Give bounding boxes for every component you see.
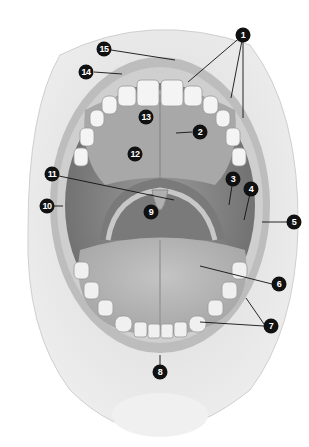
label-marker-11: 11 xyxy=(45,167,60,182)
oral-cavity-diagram: 123456789101112131415 xyxy=(0,0,309,447)
label-marker-15: 15 xyxy=(97,42,112,57)
label-marker-3: 3 xyxy=(226,172,241,187)
label-marker-8: 8 xyxy=(153,365,168,380)
label-marker-13: 13 xyxy=(139,110,154,125)
label-marker-10: 10 xyxy=(40,199,55,214)
label-marker-9: 9 xyxy=(144,205,159,220)
label-marker-1: 1 xyxy=(236,28,251,43)
label-marker-6: 6 xyxy=(272,277,287,292)
label-marker-7: 7 xyxy=(264,319,279,334)
label-marker-4: 4 xyxy=(244,182,259,197)
label-marker-14: 14 xyxy=(79,65,94,80)
label-marker-2: 2 xyxy=(193,125,208,140)
label-marker-5: 5 xyxy=(287,215,302,230)
label-marker-12: 12 xyxy=(128,147,143,162)
mouth-illustration xyxy=(0,0,309,447)
